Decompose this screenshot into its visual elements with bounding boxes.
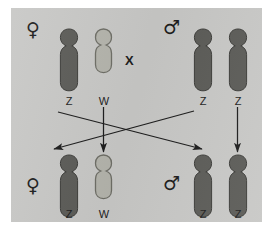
offspring-male-chromosome-label-z-right: Z [218, 209, 258, 220]
offspring-female-chromosome-label-w: W [84, 209, 124, 220]
zw-sex-determination-figure: ♀ Z W X ♂ Z [0, 0, 279, 239]
diagram-panel: ♀ Z W X ♂ Z [11, 8, 262, 222]
arrow-maternal-z-to-male-offspring [58, 112, 202, 149]
inheritance-arrow-layer [11, 8, 262, 222]
offspring-male-chromosome-label-z-left: Z [183, 209, 223, 220]
offspring-female-sex-symbol: ♀ [26, 176, 40, 195]
offspring-female-chromosome-label-z: Z [49, 209, 89, 220]
offspring-female-chromosome-w [94, 154, 113, 200]
offspring-male-sex-symbol: ♂ [163, 174, 180, 193]
